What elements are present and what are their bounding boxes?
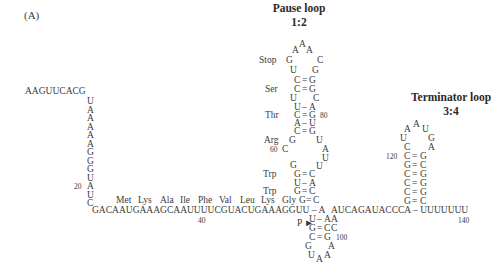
- pause-loop-pairing: 1:2: [262, 17, 336, 29]
- codon-label-trp-2: Trp: [263, 187, 276, 197]
- nt: G: [299, 196, 306, 206]
- codon-label-thr: Thr: [265, 111, 279, 121]
- position-140: 140: [458, 217, 469, 225]
- base-pair: =: [302, 127, 307, 137]
- sequence-left: GACAAUGAAAGCAAUUUUCGUACUGAAAGGUU – A: [92, 206, 325, 216]
- nt: G: [289, 136, 296, 146]
- nt: C: [420, 197, 426, 207]
- codon-label-stop: Stop: [259, 56, 276, 66]
- position-80: 80: [320, 112, 328, 120]
- nt: A: [292, 46, 299, 56]
- nt: A: [306, 46, 313, 56]
- codon-label-trp: Trp: [263, 170, 276, 180]
- leader-5prime: AAGUUCACG: [25, 87, 86, 97]
- nt: A: [316, 255, 323, 265]
- panel-label: (A): [24, 10, 39, 21]
- position-60: 60: [270, 146, 278, 154]
- base-pair: =: [412, 197, 417, 207]
- nt: U: [322, 154, 329, 164]
- position-20: 20: [74, 183, 82, 191]
- nt: A: [299, 40, 306, 50]
- base-pair: =: [306, 196, 311, 206]
- nt: G: [309, 127, 316, 137]
- nt: C: [282, 145, 288, 155]
- position-120: 120: [386, 153, 397, 161]
- base-pair: =: [317, 233, 322, 243]
- nt: C: [313, 196, 319, 206]
- position-100: 100: [336, 234, 347, 242]
- nt: U: [316, 162, 323, 172]
- nt: U: [308, 251, 315, 261]
- terminator-loop-pairing: 3:4: [406, 106, 494, 118]
- nt: G: [404, 197, 411, 207]
- pause-loop-title: Pause loop: [262, 3, 336, 15]
- nt: A: [413, 120, 420, 130]
- position-40: 40: [198, 217, 206, 225]
- nt: A: [324, 251, 331, 261]
- attenuator-diagram: (A) Pause loop 1:2 Terminator loop 3:4 A…: [0, 0, 494, 273]
- nt: A: [428, 143, 435, 153]
- base-pair: =: [302, 85, 307, 95]
- terminator-loop-title: Terminator loop: [406, 92, 494, 104]
- codon-label-ser: Ser: [265, 85, 278, 95]
- sequence-right: AUCAGAUACCCA – UUUUUUU: [331, 206, 468, 216]
